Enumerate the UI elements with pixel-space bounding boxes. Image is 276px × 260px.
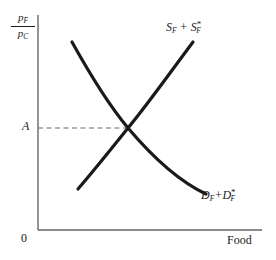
origin-label: 0 [21,232,27,244]
demand-curve-label: DF+D*F [201,188,235,203]
supply-curve-label: SF + S*F [166,20,201,35]
y-axis-label: pF pC [11,11,35,41]
y-axis-label-numerator: pF [11,11,35,27]
supply-demand-figure: pF pC SF + S*F DF+D*F A 0 Food [0,0,276,260]
equilibrium-price-label: A [22,120,29,132]
y-axis-label-denominator: pC [11,27,35,42]
supply-curve [78,42,193,189]
plot-canvas [0,0,276,260]
x-axis-label: Food [227,234,252,246]
